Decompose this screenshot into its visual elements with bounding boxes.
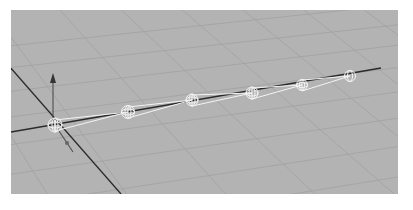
z-axis-handle-icon[interactable] xyxy=(65,141,69,145)
bone-chain xyxy=(55,76,350,131)
world-axes xyxy=(11,66,381,194)
ground-grid xyxy=(11,10,398,194)
3d-viewport[interactable] xyxy=(11,10,398,194)
perspective-scene[interactable] xyxy=(11,10,398,194)
y-axis-arrow-icon[interactable] xyxy=(50,73,56,83)
